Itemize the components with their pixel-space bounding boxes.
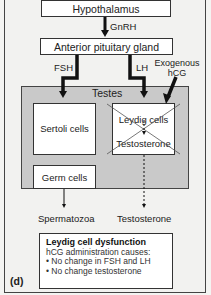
- info-bullet-2: • No change testosterone: [46, 267, 166, 277]
- panel-label: (d): [10, 276, 23, 286]
- info-box: Leydig cell dysfunction hCG administrati…: [39, 233, 173, 289]
